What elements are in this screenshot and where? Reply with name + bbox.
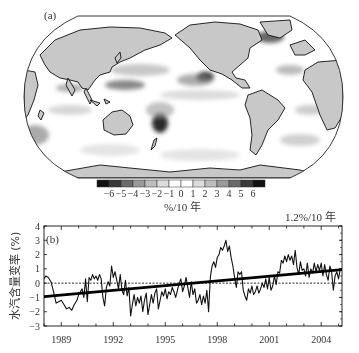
figure: −6−5−4−3−2−10123456 −3−2−101234 19891992… [0, 0, 359, 353]
colorbar-tick: 4 [227, 188, 232, 199]
colorbar-unit: %/10 年 [164, 198, 201, 214]
y-tick-label: −2 [29, 306, 40, 317]
world-map [21, 16, 343, 178]
x-tick-label: 2001 [259, 334, 279, 345]
x-tick-label: 1995 [155, 334, 175, 345]
x-tick-label: 1998 [207, 334, 227, 345]
colorbar-tick: −4 [128, 188, 139, 199]
y-tick-label: 3 [35, 235, 40, 246]
x-tick-label: 2004 [311, 334, 331, 345]
y-tick-label: 0 [35, 278, 40, 289]
colorbar-tick: 2 [203, 188, 208, 199]
y-tick-label: −1 [29, 292, 40, 303]
panel-a-label: (a) [44, 9, 56, 21]
colorbar-tick: 3 [215, 188, 220, 199]
timeseries-plot: −3−2−101234 198919921995199820012004 [29, 221, 342, 346]
colorbar-tick: 6 [251, 188, 256, 199]
colorbar-tick: −3 [140, 188, 151, 199]
y-tick-label: −3 [29, 321, 40, 332]
y-tick-label: 4 [35, 221, 40, 232]
colorbar-tick: −2 [152, 188, 163, 199]
y-axis-label: 水汽含量变率 (%) [6, 232, 22, 321]
colorbar-tick: −5 [116, 188, 127, 199]
y-tick-label: 2 [35, 249, 40, 260]
trend-annotation: 1.2%/10 年 [285, 208, 336, 224]
colorbar-tick: −6 [104, 188, 115, 199]
colorbar-tick: 5 [239, 188, 244, 199]
y-tick-label: 1 [35, 263, 40, 274]
panel-b-label: (b) [46, 233, 59, 245]
x-tick-label: 1989 [51, 334, 71, 345]
colorbar: −6−5−4−3−2−10123456 [97, 180, 265, 199]
x-tick-label: 1992 [103, 334, 123, 345]
